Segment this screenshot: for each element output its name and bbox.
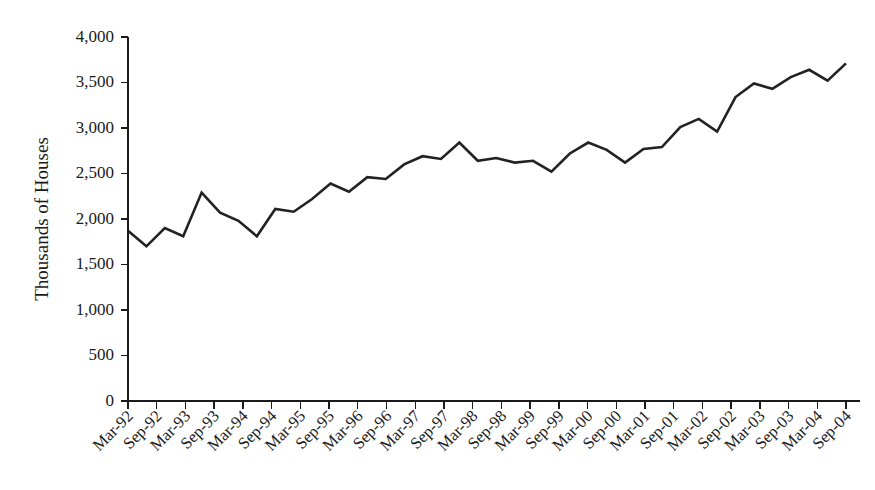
y-axis-tick-label: 1,000 [76,300,114,319]
chart-figure: Thousands of Houses 05001,0001,5002,0002… [0,0,875,490]
y-axis-title: Thousands of Houses [31,137,52,301]
y-axis-title-text: Thousands of Houses [31,137,52,301]
y-axis-tick-label: 2,000 [76,209,114,228]
line-chart: Thousands of Houses 05001,0001,5002,0002… [0,0,875,490]
y-axis-tick-label: 3,000 [76,118,114,137]
y-axis-tick-marks [121,37,128,401]
y-axis-tick-label: 2,500 [76,163,114,182]
y-axis-tick-labels: 05001,0001,5002,0002,5003,0003,5004,000 [76,27,114,410]
y-axis-tick-label: 0 [106,391,115,410]
x-axis-tick-labels: Mar-92Sep-92Mar-93Sep-93Mar-94Sep-94Mar-… [89,406,855,454]
y-axis-tick-label: 3,500 [76,72,114,91]
data-series-line [128,63,846,246]
y-axis-tick-label: 1,500 [76,254,114,273]
y-axis-tick-label: 500 [89,345,115,364]
y-axis-tick-label: 4,000 [76,27,114,46]
